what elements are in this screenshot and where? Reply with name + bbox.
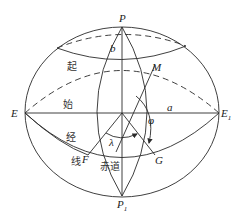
label-M: M [151,61,162,73]
ellipsoid-diagram: P P1 E E1 M F G b a λ φ 起 始 经 线 赤道 [0,0,247,223]
label-P1: P1 [116,198,127,213]
label-lambda: λ [108,136,114,148]
label-a: a [167,101,173,113]
label-E: E [10,107,18,119]
label-G: G [155,154,163,166]
parallel-front [57,46,186,60]
line-OF [88,113,122,155]
label-xian: 线 [71,155,81,167]
label-equator: 赤道 [100,160,120,172]
label-shi: 始 [63,98,73,110]
label-E1: E1 [220,107,231,122]
label-jing: 经 [66,131,76,143]
label-b: b [110,42,116,54]
label-P: P [118,12,126,24]
label-qi: 起 [67,61,77,72]
label-F: F [81,153,89,165]
label-phi: φ [148,114,154,126]
